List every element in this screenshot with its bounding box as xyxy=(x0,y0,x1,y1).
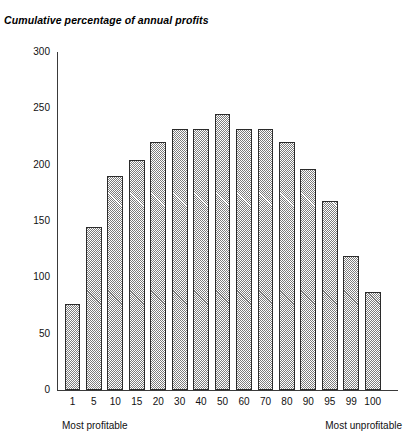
x-tick-label: 90 xyxy=(298,396,319,407)
x-tick-label: 10 xyxy=(105,396,126,407)
bar xyxy=(236,129,252,390)
bar xyxy=(343,256,359,390)
annotation-most-profitable: Most profitable xyxy=(62,420,128,431)
x-tick-label: 70 xyxy=(255,396,276,407)
x-tick-label: 95 xyxy=(319,396,340,407)
bar xyxy=(365,292,381,390)
bar xyxy=(193,129,209,390)
x-tick-label: 100 xyxy=(362,396,383,407)
bar-series xyxy=(57,52,398,390)
x-tick-label: 20 xyxy=(148,396,169,407)
bar xyxy=(215,114,231,390)
x-tick-label: 99 xyxy=(341,396,362,407)
y-tick-label: 150 xyxy=(20,216,50,226)
y-tick-label: 200 xyxy=(20,160,50,170)
bar xyxy=(300,169,316,390)
x-tick-label: 5 xyxy=(83,396,104,407)
y-axis-tick-labels: 050100150200250300 xyxy=(18,0,50,434)
x-axis-line xyxy=(57,390,398,391)
x-tick-label: 15 xyxy=(126,396,147,407)
bar xyxy=(322,201,338,390)
bar xyxy=(86,227,102,390)
y-tick-label: 0 xyxy=(20,385,50,395)
bar xyxy=(172,129,188,390)
x-axis-tick-labels: 15101520304050607080909599100 xyxy=(57,396,398,412)
bar xyxy=(129,160,145,390)
x-tick-label: 1 xyxy=(62,396,83,407)
x-tick-label: 40 xyxy=(190,396,211,407)
y-tick-label: 100 xyxy=(20,272,50,282)
bar xyxy=(279,142,295,390)
bar xyxy=(150,142,166,390)
bar xyxy=(258,129,274,390)
x-tick-label: 30 xyxy=(169,396,190,407)
x-tick-label: 60 xyxy=(233,396,254,407)
chart-figure: Cumulative percentage of annual profits … xyxy=(0,0,409,434)
x-tick-label: 80 xyxy=(276,396,297,407)
annotation-most-unprofitable: Most unprofitable xyxy=(325,420,402,431)
bar xyxy=(107,176,123,390)
bar xyxy=(65,304,81,390)
y-tick-label: 50 xyxy=(20,329,50,339)
y-tick-label: 300 xyxy=(20,47,50,57)
x-tick-label: 50 xyxy=(212,396,233,407)
y-tick-label: 250 xyxy=(20,103,50,113)
